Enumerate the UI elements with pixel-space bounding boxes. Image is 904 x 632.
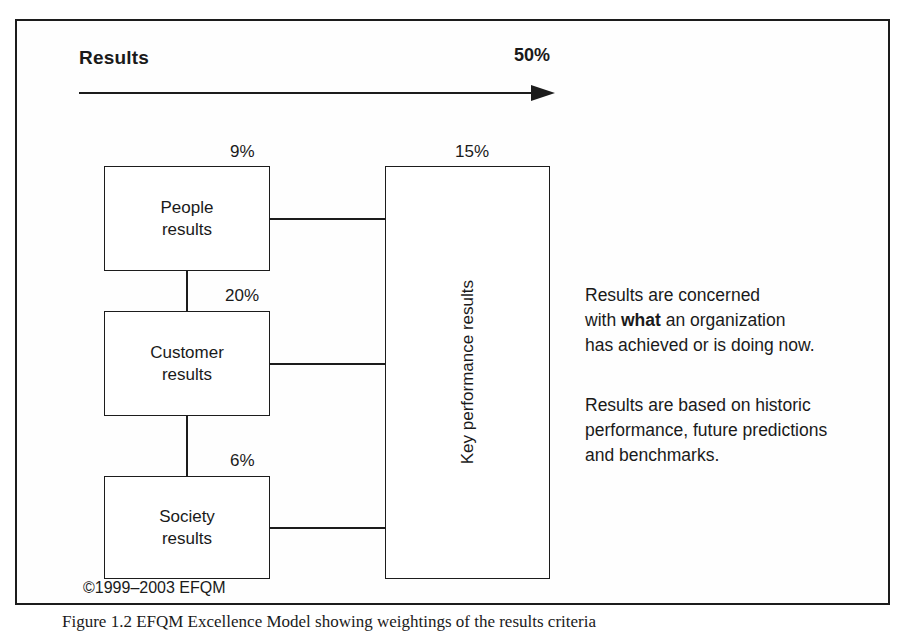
- node-customer-results: Customer results: [104, 311, 270, 416]
- node-key-performance-results: Key performance results: [385, 166, 550, 579]
- weight-label-people: 9%: [230, 142, 255, 162]
- connector-people-to-kpr: [270, 218, 386, 220]
- node-label-people: People results: [161, 197, 214, 241]
- node-society-results: Society results: [104, 476, 270, 579]
- weight-label-customer: 20%: [225, 286, 259, 306]
- right-arrow-icon: [79, 84, 555, 102]
- connector-people-to-customer: [186, 271, 188, 311]
- results-total-weight-label: 50%: [514, 45, 550, 66]
- note-one-emphasis: what: [621, 310, 661, 330]
- node-label-key-performance-results: Key performance results: [457, 280, 479, 464]
- weight-label-society: 6%: [230, 451, 255, 471]
- page-title: Results: [79, 47, 149, 69]
- figure-frame: Results 50% 9% 20% 6% 15% People results…: [15, 19, 890, 605]
- note-paragraph-one: Results are concerned with what an organ…: [585, 283, 885, 358]
- note-paragraph-two: Results are based on historic performanc…: [585, 393, 895, 468]
- figure-caption: Figure 1.2 EFQM Excellence Model showing…: [62, 612, 892, 632]
- node-label-society: Society results: [159, 506, 215, 550]
- connector-society-to-kpr: [270, 527, 386, 529]
- connector-customer-to-society: [186, 416, 188, 476]
- node-people-results: People results: [104, 166, 270, 271]
- connector-customer-to-kpr: [270, 363, 386, 365]
- node-label-customer: Customer results: [150, 342, 224, 386]
- copyright-notice: ©1999–2003 EFQM: [83, 579, 226, 597]
- weight-label-key-performance-results: 15%: [455, 142, 489, 162]
